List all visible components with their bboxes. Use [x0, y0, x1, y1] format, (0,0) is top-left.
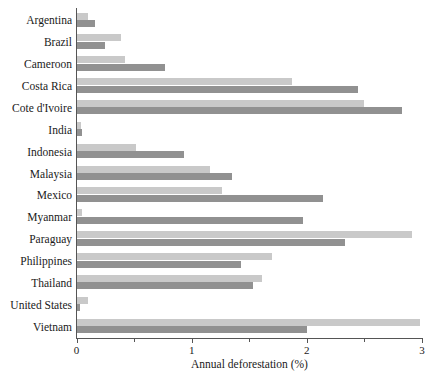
category-label: Argentina [2, 14, 72, 26]
x-tick-label: 1 [189, 344, 195, 356]
bar [77, 86, 358, 93]
bar [77, 144, 137, 151]
category-label-group: ArgentinaBrazilCameroonCosta RicaCote d'… [0, 0, 72, 381]
category-label: Thailand [2, 277, 72, 289]
x-axis-title: Annual deforestation (%) [76, 358, 423, 371]
bar [77, 282, 253, 289]
bar [77, 42, 106, 49]
x-minor-tick [134, 338, 135, 342]
category-label: India [2, 124, 72, 136]
category-label: Philippines [2, 255, 72, 267]
x-minor-tick [249, 338, 250, 342]
bar [77, 261, 242, 268]
bar [77, 107, 403, 114]
x-tick-label: 2 [304, 344, 310, 356]
category-label: Vietnam [2, 321, 72, 333]
bar [77, 173, 232, 180]
bar [77, 64, 166, 71]
bar [77, 166, 211, 173]
bar [77, 13, 89, 20]
bar [77, 217, 304, 224]
bar [77, 56, 125, 63]
x-minor-tick [364, 338, 365, 342]
bar [77, 122, 82, 129]
bar [77, 275, 262, 282]
bar [77, 100, 365, 107]
bar [77, 20, 95, 27]
bar [77, 187, 222, 194]
category-label: Indonesia [2, 146, 72, 158]
bar [77, 195, 323, 202]
category-label: Costa Rica [2, 80, 72, 92]
bar [77, 129, 83, 136]
category-label: Paraguay [2, 233, 72, 245]
x-tick-label: 3 [419, 344, 425, 356]
bar [77, 78, 292, 85]
category-label: Brazil [2, 36, 72, 48]
bar [77, 209, 83, 216]
x-tick [77, 338, 78, 343]
bar [77, 326, 307, 333]
bar [77, 319, 420, 326]
x-tick [307, 338, 308, 343]
bar [77, 304, 80, 311]
bar [77, 253, 273, 260]
bar [77, 239, 345, 246]
category-label: Cameroon [2, 58, 72, 70]
category-label: United States [2, 299, 72, 311]
x-tick [192, 338, 193, 343]
category-label: Myanmar [2, 211, 72, 223]
bar [77, 297, 89, 304]
plot-area: 0123 ArgentinaBrazilCameroonCosta RicaCo… [0, 0, 448, 381]
category-label: Mexico [2, 189, 72, 201]
x-tick [422, 338, 423, 343]
category-label: Malaysia [2, 168, 72, 180]
deforestation-chart: 0123 ArgentinaBrazilCameroonCosta RicaCo… [0, 0, 448, 381]
bar [77, 34, 122, 41]
bar [77, 151, 184, 158]
x-tick-label: 0 [74, 344, 80, 356]
category-label: Cote d'Ivoire [2, 102, 72, 114]
bar [77, 231, 412, 238]
